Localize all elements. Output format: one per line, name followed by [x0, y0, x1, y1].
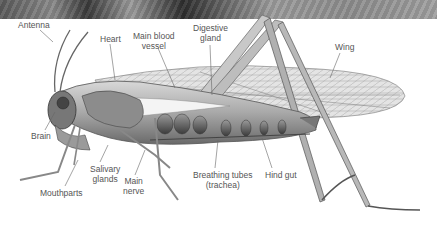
- label-main-nerve: Main nerve: [123, 176, 144, 196]
- label-heart: Heart: [100, 34, 121, 44]
- head-shape: [48, 91, 76, 129]
- label-antenna: Antenna: [18, 20, 50, 30]
- label-brain: Brain: [31, 131, 51, 141]
- label-wing: Wing: [335, 42, 354, 52]
- label-mouthparts: Mouthparts: [40, 188, 83, 198]
- label-hind-gut: Hind gut: [265, 170, 297, 180]
- label-salivary-glands: Salivary glands: [90, 164, 120, 184]
- label-digestive-gland: Digestive gland: [193, 23, 228, 43]
- label-main-blood-vessel: Main blood vessel: [133, 31, 175, 51]
- label-breathing-tubes: Breathing tubes (trachea): [193, 170, 253, 190]
